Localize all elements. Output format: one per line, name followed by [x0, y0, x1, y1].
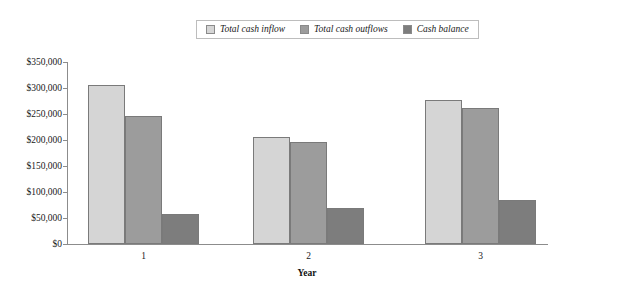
legend-label-total-cash-inflow: Total cash inflow	[220, 25, 285, 35]
x-tick-label-2: 2	[306, 251, 311, 261]
x-tick-label-3: 3	[478, 251, 483, 261]
bar-total-cash-inflow-year-3	[425, 100, 462, 244]
y-tick-label: $50,000	[31, 213, 62, 223]
legend-label-cash-balance: Cash balance	[417, 25, 469, 35]
bar-cash-balance-year-1	[162, 214, 199, 244]
bar-total-cash-outflows-year-3	[462, 108, 499, 244]
bar-total-cash-outflows-year-1	[125, 116, 162, 244]
cash-flow-bar-chart: Total cash inflow Total cash outflows Ca…	[0, 0, 618, 297]
legend-swatch-icon-cash-balance	[403, 25, 412, 34]
bar-cash-balance-year-2	[327, 208, 364, 244]
legend-swatch-icon-total-cash-outflows	[300, 25, 309, 34]
y-tick-mark	[63, 244, 67, 245]
legend-item-total-cash-inflow: Total cash inflow	[206, 25, 285, 35]
bar-series-group	[67, 62, 548, 244]
x-axis-title: Year	[298, 268, 317, 278]
chart-legend: Total cash inflow Total cash outflows Ca…	[196, 20, 479, 39]
bar-total-cash-inflow-year-2	[253, 137, 290, 244]
y-tick-label: $150,000	[26, 161, 62, 171]
x-tick-label-1: 1	[141, 251, 146, 261]
x-axis-line	[67, 244, 548, 245]
y-tick-label: $250,000	[26, 109, 62, 119]
bar-total-cash-outflows-year-2	[290, 142, 327, 244]
legend-label-total-cash-outflows: Total cash outflows	[314, 25, 388, 35]
y-tick-label: $300,000	[26, 83, 62, 93]
legend-swatch-icon-total-cash-inflow	[206, 25, 215, 34]
bar-cash-balance-year-3	[499, 200, 536, 244]
legend-item-cash-balance: Cash balance	[403, 25, 469, 35]
y-tick-label: $350,000	[26, 57, 62, 67]
plot-area: $0$50,000$100,000$150,000$200,000$250,00…	[67, 62, 548, 244]
y-tick-label: $100,000	[26, 187, 62, 197]
y-tick-label: $200,000	[26, 135, 62, 145]
legend-item-total-cash-outflows: Total cash outflows	[300, 25, 388, 35]
bar-total-cash-inflow-year-1	[88, 85, 125, 244]
y-tick-label: $0	[53, 239, 63, 249]
